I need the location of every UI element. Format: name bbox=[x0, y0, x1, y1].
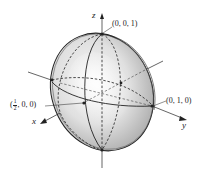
ellipsoid-diagram bbox=[0, 0, 203, 182]
point-left-equator bbox=[51, 79, 54, 82]
point-front-label-suffix: , 0, 0) bbox=[17, 100, 36, 109]
z-axis-arrow-icon bbox=[100, 13, 104, 19]
point-front-label: (12, 0, 0) bbox=[10, 99, 36, 111]
point-side-label: (0, 1, 0) bbox=[166, 97, 191, 105]
point-back-equator bbox=[120, 82, 123, 85]
x-axis-front bbox=[45, 113, 60, 121]
y-axis-front bbox=[152, 106, 182, 118]
leader-top bbox=[103, 27, 112, 33]
x-axis-arrow-icon bbox=[40, 118, 47, 124]
y-axis-label: y bbox=[182, 121, 186, 130]
z-axis-label: z bbox=[92, 11, 96, 20]
point-top-label: (0, 0, 1) bbox=[112, 20, 137, 28]
x-axis-label: x bbox=[32, 117, 36, 126]
frac-denominator: 2 bbox=[14, 106, 17, 112]
